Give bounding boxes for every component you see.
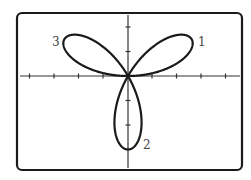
petal-label-2: 2 xyxy=(143,139,151,151)
screen-frame xyxy=(17,13,242,170)
petal-label-1: 1 xyxy=(198,36,206,48)
polar-plot xyxy=(0,0,251,180)
petal-label-3: 3 xyxy=(52,36,60,48)
